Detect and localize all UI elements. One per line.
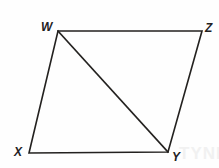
vertex-label-x: X bbox=[14, 146, 22, 158]
vertex-label-z: Z bbox=[205, 22, 212, 34]
quadrilateral-wxyz-outline bbox=[29, 31, 202, 153]
diagonal-segment-wy bbox=[58, 31, 168, 152]
geometry-figure: W Z X Y TYNE bbox=[0, 0, 219, 168]
parallelogram-diagram bbox=[0, 0, 219, 168]
vertex-label-y: Y bbox=[172, 151, 180, 163]
vertex-label-w: W bbox=[41, 21, 52, 33]
